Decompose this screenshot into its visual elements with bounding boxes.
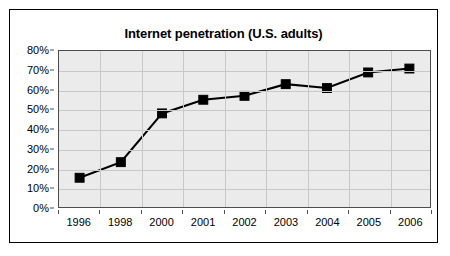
y-axis-tick-label: 30% (27, 143, 49, 155)
y-axis-tick (50, 50, 54, 51)
x-axis-tick-label: 2000 (149, 216, 173, 228)
x-axis-tick-label: 2004 (315, 216, 339, 228)
data-point-marker (75, 173, 84, 182)
gridline-vertical (349, 51, 350, 207)
x-axis: 199619982000200120022003200420052006 (58, 210, 431, 234)
y-axis-tick-label: 0% (33, 202, 49, 214)
chart-title: Internet penetration (U.S. adults) (10, 26, 437, 41)
x-axis-tick (431, 210, 432, 214)
y-axis-tick (50, 89, 54, 90)
x-axis-tick (265, 210, 266, 214)
y-axis-tick (50, 69, 54, 70)
y-axis-tick (50, 188, 54, 189)
y-axis-tick (50, 148, 54, 149)
x-axis-tick-label: 1996 (66, 216, 90, 228)
y-axis-tick (50, 168, 54, 169)
y-axis-tick-label: 80% (27, 44, 49, 56)
x-axis-tick-label: 2001 (191, 216, 215, 228)
line-series (59, 51, 430, 207)
series-line-internet-penetration (80, 69, 410, 178)
gridline-vertical (183, 51, 184, 207)
x-axis-tick-label: 2005 (357, 216, 381, 228)
x-axis-tick (99, 210, 100, 214)
x-axis-tick (224, 210, 225, 214)
y-axis-tick-label: 20% (27, 163, 49, 175)
gridline-vertical (142, 51, 143, 207)
x-axis-tick (390, 210, 391, 214)
gridline-horizontal (59, 170, 430, 171)
data-point-marker (240, 91, 249, 100)
gridline-vertical (266, 51, 267, 207)
y-axis-tick (50, 129, 54, 130)
data-point-marker (199, 95, 208, 104)
gridline-vertical (391, 51, 392, 207)
data-point-marker (364, 68, 373, 77)
series-markers (75, 64, 414, 182)
y-axis-tick-label: 70% (27, 64, 49, 76)
x-axis-tick-label: 1998 (108, 216, 132, 228)
x-axis-tick (307, 210, 308, 214)
y-axis-tick (50, 109, 54, 110)
chart-container: Internet penetration (U.S. adults) 0%10%… (9, 9, 438, 243)
gridline-horizontal (59, 110, 430, 111)
gridline-horizontal (59, 130, 430, 131)
gridline-vertical (225, 51, 226, 207)
gridline-vertical (308, 51, 309, 207)
gridline-horizontal (59, 91, 430, 92)
gridline-horizontal (59, 71, 430, 72)
x-axis-tick-label: 2003 (274, 216, 298, 228)
gridline-horizontal (59, 150, 430, 151)
y-axis-tick (50, 208, 54, 209)
y-axis-tick-label: 10% (27, 182, 49, 194)
x-axis-tick-label: 2006 (398, 216, 422, 228)
y-axis-tick-label: 40% (27, 123, 49, 135)
x-axis-tick (348, 210, 349, 214)
y-axis: 0%10%20%30%40%50%60%70%80% (10, 50, 54, 208)
gridline-horizontal (59, 189, 430, 190)
y-axis-tick-label: 60% (27, 84, 49, 96)
data-point-marker (116, 158, 125, 167)
x-axis-tick (58, 210, 59, 214)
x-axis-tick-label: 2002 (232, 216, 256, 228)
x-axis-tick (182, 210, 183, 214)
data-point-marker (281, 80, 290, 89)
gridline-vertical (100, 51, 101, 207)
plot-area (58, 50, 431, 208)
y-axis-tick-label: 50% (27, 103, 49, 115)
x-axis-tick (141, 210, 142, 214)
